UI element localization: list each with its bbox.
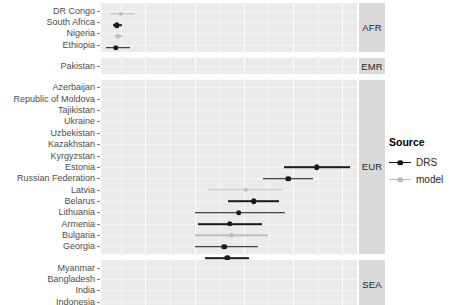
y-axis-label: Russian Federation — [17, 173, 95, 183]
y-axis-tick — [97, 11, 100, 12]
legend-title: Source — [389, 136, 453, 148]
y-axis-label: Belarus — [64, 196, 95, 206]
y-axis-tick — [97, 290, 100, 291]
facet-strip-emr: EMR — [359, 58, 385, 73]
y-axis-tick — [97, 87, 100, 88]
y-axis-label: Indonesia — [56, 297, 95, 305]
facet-strip-label: EUR — [362, 161, 383, 172]
y-axis-label: Bulgaria — [62, 230, 95, 240]
y-axis-tick — [97, 178, 100, 179]
y-axis-label: Estonia — [65, 162, 95, 172]
y-axis-tick — [97, 110, 100, 111]
y-axis-label: Ukraine — [64, 116, 95, 126]
legend-item-drs[interactable]: DRS — [389, 154, 453, 171]
y-axis-label: Republic of Moldova — [13, 94, 95, 104]
y-axis-tick — [97, 246, 100, 247]
data-point — [230, 233, 235, 238]
gridline-row — [101, 45, 357, 46]
legend-label: model — [416, 174, 443, 185]
y-axis-label: Pakistan — [60, 61, 95, 71]
mdr-tb-forest-plot: AFREMREURSEAWPR 510152025 MDR-TB (%) Sou… — [0, 0, 453, 305]
y-axis-tick — [97, 144, 100, 145]
y-axis-label: Tajikistan — [58, 105, 95, 115]
data-point — [114, 22, 120, 28]
y-axis-label: Azerbaijan — [52, 82, 95, 92]
y-axis-label: Lithuania — [58, 207, 95, 217]
panel-background — [101, 3, 357, 52]
y-axis-tick — [97, 22, 100, 23]
gridline-row — [101, 290, 357, 291]
y-axis-tick — [97, 212, 100, 213]
y-axis-tick — [97, 235, 100, 236]
legend-point — [397, 177, 403, 183]
gridline-row — [101, 66, 357, 67]
facet-strip-afr: AFR — [359, 3, 385, 52]
legend-item-model[interactable]: model — [389, 171, 453, 188]
y-axis-tick — [97, 33, 100, 34]
y-axis-tick — [97, 190, 100, 191]
y-axis-label: Nigeria — [66, 28, 95, 38]
legend-point — [397, 160, 403, 166]
y-axis-tick — [97, 156, 100, 157]
data-point — [113, 45, 119, 51]
gridline-row — [101, 22, 357, 23]
gridline-row — [101, 99, 357, 100]
gridline-row — [101, 11, 357, 12]
y-axis-label: Armenia — [61, 219, 95, 229]
data-point — [236, 210, 242, 216]
y-axis-label: India — [75, 285, 95, 295]
y-axis-label: South Africa — [46, 17, 95, 27]
gridline-row — [101, 121, 357, 122]
y-axis-label: Ethiopia — [62, 40, 95, 50]
y-axis-label: Uzbekistan — [50, 128, 95, 138]
facet-strip-label: SEA — [362, 279, 382, 290]
legend-key-icon — [389, 173, 411, 187]
y-axis-tick — [97, 99, 100, 100]
gridline-row — [101, 87, 357, 88]
y-axis-label: Bangladesh — [47, 274, 95, 284]
legend: Source DRSmodel — [389, 136, 453, 188]
data-point — [251, 198, 257, 204]
legend-items: DRSmodel — [389, 154, 453, 188]
gridline-row — [101, 144, 357, 145]
y-axis-label: Kyrgyzstan — [50, 151, 95, 161]
data-point — [118, 11, 123, 16]
gridline-row — [101, 178, 357, 179]
y-axis-label: Latvia — [71, 185, 95, 195]
legend-label: DRS — [416, 157, 437, 168]
y-axis-tick — [97, 167, 100, 168]
gridline-row — [101, 33, 357, 34]
y-axis-tick — [97, 45, 100, 46]
y-axis-label: Kazakhstan — [48, 139, 95, 149]
gridline-row — [101, 110, 357, 111]
panel-background — [101, 58, 357, 73]
data-point — [115, 34, 120, 39]
y-axis-tick — [97, 302, 100, 303]
y-axis-label: Myanmar — [57, 263, 95, 273]
data-point — [243, 188, 248, 193]
gridline-row — [101, 156, 357, 157]
data-point — [221, 244, 227, 250]
legend-key-icon — [389, 156, 411, 170]
y-axis-tick — [97, 133, 100, 134]
panel-background — [101, 260, 357, 305]
gridline-row — [101, 133, 357, 134]
facet-strip-sea: SEA — [359, 260, 385, 305]
data-point — [314, 164, 320, 170]
facet-strip-label: EMR — [361, 61, 383, 72]
gridline-row — [101, 302, 357, 303]
y-axis-tick — [97, 279, 100, 280]
y-axis-tick — [97, 121, 100, 122]
y-axis-tick — [97, 224, 100, 225]
gridline-row — [101, 279, 357, 280]
gridline-row — [101, 268, 357, 269]
y-axis-tick — [97, 66, 100, 67]
data-point — [227, 221, 233, 227]
facet-strip-eur: EUR — [359, 80, 385, 254]
y-axis-tick — [97, 268, 100, 269]
facet-strip-label: AFR — [362, 22, 382, 33]
data-point — [285, 176, 291, 182]
y-axis-label: Georgia — [63, 241, 95, 251]
y-axis-tick — [97, 201, 100, 202]
y-axis-label: DR Congo — [53, 6, 95, 16]
